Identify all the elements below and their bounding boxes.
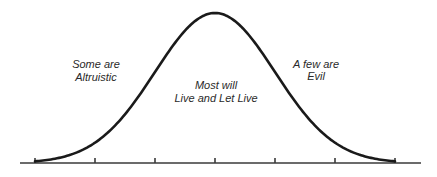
annotation-live-and-let-live: Most will Live and Let Live bbox=[174, 79, 257, 104]
annotation-evil: A few are Evil bbox=[292, 58, 339, 82]
annotation-center-line-1: Most will bbox=[195, 79, 238, 91]
annotation-evil-line-2: Evil bbox=[307, 70, 325, 82]
bell-curve-diagram: Some are Altruistic Most will Live and L… bbox=[0, 0, 437, 177]
annotation-altruistic-line-2: Altruistic bbox=[74, 71, 117, 83]
annotation-altruistic: Some are Altruistic bbox=[72, 58, 120, 83]
annotation-center-line-2: Live and Let Live bbox=[174, 92, 257, 104]
annotation-altruistic-line-1: Some are bbox=[72, 58, 120, 70]
annotation-evil-line-1: A few are bbox=[292, 58, 339, 70]
